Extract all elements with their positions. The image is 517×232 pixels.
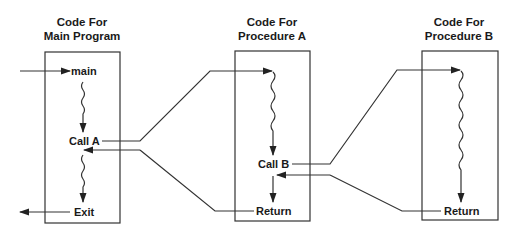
main-label: main bbox=[71, 65, 97, 77]
procedure-a-flow-squiggle bbox=[271, 72, 275, 155]
call-b-label: Call B bbox=[258, 158, 289, 170]
procedure-b-box bbox=[422, 51, 498, 220]
main-program-column: Code For Main Program main Call A Exit bbox=[20, 16, 272, 223]
call-b-arrow bbox=[292, 70, 460, 164]
procedure-a-title-line2: Procedure A bbox=[238, 30, 306, 42]
procedure-a-title-line1: Code For bbox=[247, 16, 298, 28]
main-flow-squiggle-1 bbox=[82, 82, 85, 132]
procedure-a-column: Code For Procedure A Call B Return bbox=[140, 16, 460, 221]
procedure-a-return-label: Return bbox=[256, 205, 292, 217]
return-b-line bbox=[330, 175, 441, 211]
call-a-label: Call A bbox=[69, 135, 100, 147]
procedure-b-column: Code For Procedure B Return bbox=[330, 16, 498, 220]
procedure-call-diagram: Code For Main Program main Call A Exit C… bbox=[0, 0, 517, 232]
procedure-b-title-line2: Procedure B bbox=[425, 30, 493, 42]
main-program-title-line2: Main Program bbox=[44, 30, 121, 42]
procedure-b-flow-squiggle bbox=[459, 71, 463, 202]
main-program-title-line1: Code For bbox=[57, 16, 108, 28]
call-a-arrow bbox=[102, 71, 272, 141]
procedure-b-title-line1: Code For bbox=[434, 16, 485, 28]
procedure-b-return-label: Return bbox=[444, 205, 480, 217]
main-flow-squiggle-2 bbox=[82, 155, 85, 202]
exit-label: Exit bbox=[74, 206, 95, 218]
return-a-line bbox=[140, 150, 254, 211]
